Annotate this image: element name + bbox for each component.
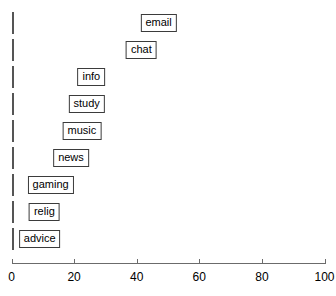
bar-row: relig xyxy=(12,201,78,223)
x-axis-tick xyxy=(74,259,75,264)
plot-area: emailchatinfostudymusicnewsgamingreligad… xyxy=(0,0,336,258)
x-axis: 020406080100 xyxy=(0,258,336,296)
bar-label: study xyxy=(68,95,104,113)
bar-row: study xyxy=(12,93,162,115)
x-axis-tick xyxy=(137,259,138,264)
x-axis-tick-label: 20 xyxy=(67,270,80,284)
bar-row: news xyxy=(12,147,131,169)
bar-row: chat xyxy=(12,39,272,61)
bar-label: email xyxy=(140,14,176,32)
x-axis-tick-label: 40 xyxy=(130,270,143,284)
x-axis-line xyxy=(12,263,325,264)
bar xyxy=(12,174,14,196)
bar-label: info xyxy=(77,68,105,86)
bar xyxy=(12,228,14,250)
bar-chart: emailchatinfostudymusicnewsgamingreligad… xyxy=(0,0,336,296)
x-axis-tick-label: 60 xyxy=(193,270,206,284)
x-axis-tick-label: 80 xyxy=(255,270,268,284)
bar-label: music xyxy=(63,122,102,140)
bar-label: relig xyxy=(29,203,60,221)
bar-label: news xyxy=(53,149,89,167)
bar xyxy=(12,201,14,223)
x-axis-tick-label: 0 xyxy=(8,270,15,284)
bar-label: advice xyxy=(19,230,61,248)
x-axis-tick xyxy=(12,259,13,264)
bar-row: gaming xyxy=(12,174,90,196)
bar xyxy=(12,120,14,142)
bar-row: music xyxy=(12,120,153,142)
x-axis-tick xyxy=(325,259,326,264)
bar-row: advice xyxy=(12,228,68,250)
bar-label: gaming xyxy=(28,176,74,194)
x-axis-tick-label: 100 xyxy=(314,270,334,284)
x-axis-tick xyxy=(262,259,263,264)
x-axis-tick xyxy=(199,259,200,264)
bar xyxy=(12,147,14,169)
bar xyxy=(12,66,14,88)
bar-row: email xyxy=(12,12,306,34)
bar-row: info xyxy=(12,66,172,88)
bar xyxy=(12,93,14,115)
bar xyxy=(12,39,14,61)
bar-label: chat xyxy=(126,41,157,59)
bar xyxy=(12,12,14,34)
